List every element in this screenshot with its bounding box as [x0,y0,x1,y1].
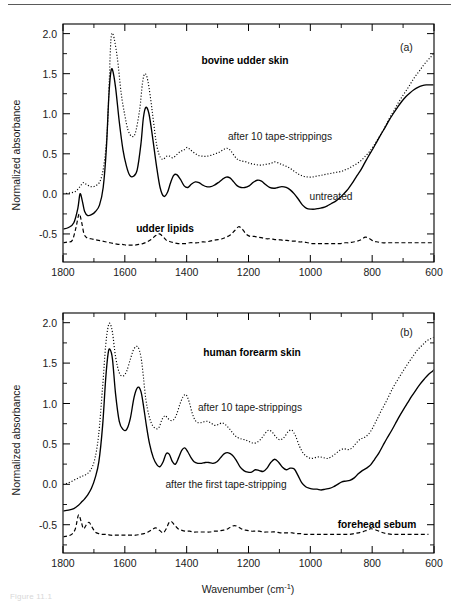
curve-label: untreated [309,191,352,202]
y-tick-label: 1.0 [42,398,57,410]
x-tick-label: 800 [363,266,381,278]
y-tick-label: 2.0 [42,317,57,329]
y-tick-label: -0.5 [39,228,57,240]
x-tick-label: 1200 [237,266,261,278]
curve-label: forehead sebum [338,519,417,530]
x-tick-label: 1400 [175,266,199,278]
y-tick-label: 0.0 [42,188,57,200]
panel-a-ylabel: Normalized absorbance [10,99,22,210]
xlabel-superscript: -1 [284,582,291,591]
curve-label: after 10 tape-strippings [228,131,332,142]
y-tick-label: 0.5 [42,148,57,160]
y-tick-label: 0.5 [42,438,57,450]
panel-b-annotations: human forearm skinafter 10 tape-strippin… [165,347,416,530]
y-tick-label: 1.5 [42,357,57,369]
x-tick-label: 1600 [113,557,137,569]
y-tick-label: -0.5 [39,519,57,531]
curve-label: udder lipids [136,223,194,234]
spectrum-curve [63,214,434,245]
panel-a-tag: (a) [400,41,413,53]
x-tick-label: 1800 [51,557,75,569]
curve-label: after 10 tape-strippings [198,402,302,413]
panel-a-plot: 180016001400120010008006002.01.51.00.50.… [0,10,459,295]
y-tick-label: 0.0 [42,478,57,490]
y-tick-label: 1.0 [42,108,57,120]
x-tick-label: 800 [363,557,381,569]
panel-b-human-forearm-skin: 180016001400120010008006002.01.51.00.50.… [0,305,459,604]
y-tick-label: 1.5 [42,68,57,80]
spectrum-curve [63,69,434,229]
figure-root: 180016001400120010008006002.01.51.00.50.… [0,0,459,604]
panel-b-ylabel: Normalized absorbance [10,384,22,495]
x-tick-label: 1600 [113,266,137,278]
panel-b-tag: (b) [400,326,413,338]
curve-label: after the first tape-stripping [165,479,287,490]
figure-caption: Figure 11.1 [10,592,340,601]
x-tick-label: 1400 [175,557,199,569]
panel-b-plot: 180016001400120010008006002.01.51.00.50.… [0,305,459,604]
y-tick-label: 2.0 [42,28,57,40]
x-tick-label: 1000 [299,557,323,569]
curve-label: human forearm skin [203,347,300,358]
curve-label: bovine udder skin [201,55,288,66]
x-tick-label: 1200 [237,557,261,569]
panel-a-bovine-udder-skin: 180016001400120010008006002.01.51.00.50.… [0,10,459,295]
x-tick-label: 1800 [51,266,75,278]
top-divider-rule [8,4,451,5]
x-tick-label: 600 [425,266,443,278]
x-tick-label: 600 [425,557,443,569]
panel-a-annotations: bovine udder skinafter 10 tape-stripping… [136,55,353,234]
x-tick-label: 1000 [299,266,323,278]
